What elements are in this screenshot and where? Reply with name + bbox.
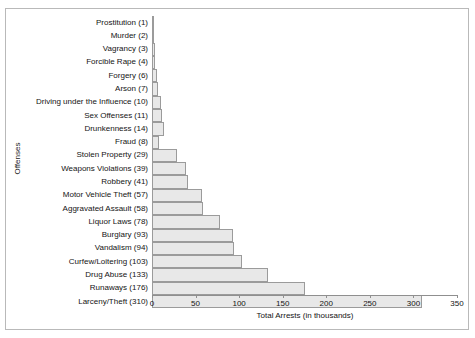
bar-category-label: Burglary (93) [102, 231, 148, 239]
bar [152, 215, 220, 228]
bar [152, 189, 202, 202]
x-axis-tick-label: 200 [320, 299, 333, 308]
bar-category-label: Arson (7) [115, 85, 148, 93]
bar-row: Forgery (6) [152, 69, 457, 82]
bar [152, 229, 233, 242]
bar [152, 202, 203, 215]
x-axis-tick [196, 295, 197, 298]
x-axis-tick-label: 300 [407, 299, 420, 308]
bar-row: Driving under the Influence (10) [152, 96, 457, 109]
bar-category-label: Sex Offenses (11) [84, 112, 148, 120]
plot-area: Prostitution (1)Murder (2)Vagrancy (3)Fo… [152, 16, 457, 295]
bar-category-label: Stolen Property (29) [76, 151, 148, 159]
bar-row: Burglary (93) [152, 229, 457, 242]
bar-category-label: Runaways (176) [90, 284, 148, 292]
x-axis-tick [152, 295, 153, 298]
bar-category-label: Vandalism (94) [95, 244, 148, 252]
x-axis-tick-label: 350 [450, 299, 463, 308]
bar-category-label: Curfew/Loitering (103) [69, 258, 148, 266]
bar-row: Liquor Laws (78) [152, 215, 457, 228]
y-axis-title-text: Offenses [14, 142, 23, 174]
bar [152, 56, 155, 69]
x-axis-title: Total Arrests (in thousands) [152, 311, 458, 320]
x-axis-line [152, 295, 458, 296]
x-axis-tick-label: 250 [363, 299, 376, 308]
x-axis-tick-label: 150 [276, 299, 289, 308]
bar-row: Vagrancy (3) [152, 43, 457, 56]
x-axis-tick-label: 50 [191, 299, 200, 308]
bar-category-label: Robbery (41) [101, 178, 148, 186]
bar [152, 255, 242, 268]
x-axis-tick [239, 295, 240, 298]
bar [152, 43, 155, 56]
bar-row: Forcible Rape (4) [152, 56, 457, 69]
x-axis-tick-label: 100 [232, 299, 245, 308]
bar-row: Robbery (41) [152, 175, 457, 188]
bar-row: Drug Abuse (133) [152, 268, 457, 281]
bar-row: Drunkenness (14) [152, 122, 457, 135]
bar [152, 162, 186, 175]
bar-category-label: Drunkenness (14) [84, 125, 148, 133]
bar-category-label: Aggravated Assault (58) [63, 205, 148, 213]
bar [152, 175, 188, 188]
x-axis-tick [457, 295, 458, 298]
bar [152, 16, 154, 29]
bar [152, 149, 177, 162]
bar-row: Runaways (176) [152, 282, 457, 295]
bar-row: Stolen Property (29) [152, 149, 457, 162]
bar-row: Weapons Violations (39) [152, 162, 457, 175]
bar [152, 69, 157, 82]
bar-row: Murder (2) [152, 29, 457, 42]
bar [152, 242, 234, 255]
bar-row: Arson (7) [152, 82, 457, 95]
bar-row: Vandalism (94) [152, 242, 457, 255]
bar-category-label: Vagrancy (3) [103, 45, 148, 53]
x-axis-tick [413, 295, 414, 298]
bar-category-label: Liquor Laws (78) [88, 218, 148, 226]
bar-category-label: Drug Abuse (133) [85, 271, 148, 279]
bar-category-label: Fraud (8) [115, 138, 148, 146]
x-axis-tick [326, 295, 327, 298]
bar [152, 82, 158, 95]
bar-category-label: Murder (2) [111, 32, 148, 40]
bar-row: Curfew/Loitering (103) [152, 255, 457, 268]
bar [152, 29, 154, 42]
bar [152, 136, 159, 149]
bar-row: Aggravated Assault (58) [152, 202, 457, 215]
bar [152, 282, 305, 295]
bar-category-label: Larceny/Theft (310) [78, 298, 148, 306]
bar-category-label: Forgery (6) [108, 72, 148, 80]
bar-category-label: Driving under the Influence (10) [36, 98, 148, 106]
bar [152, 109, 162, 122]
bar [152, 122, 164, 135]
bar-row: Sex Offenses (11) [152, 109, 457, 122]
bar-category-label: Prostitution (1) [96, 19, 148, 27]
y-axis-title: Offenses [11, 118, 25, 198]
x-axis-tick [283, 295, 284, 298]
bar-row: Fraud (8) [152, 136, 457, 149]
chart-title-clipped [0, 0, 475, 7]
bar-category-label: Motor Vehicle Theft (57) [63, 191, 148, 199]
bar-category-label: Forcible Rape (4) [86, 58, 148, 66]
x-axis-tick [370, 295, 371, 298]
bar-row: Prostitution (1) [152, 16, 457, 29]
bar-row: Motor Vehicle Theft (57) [152, 189, 457, 202]
bar-category-label: Weapons Violations (39) [61, 165, 148, 173]
bar [152, 268, 268, 281]
bar [152, 96, 161, 109]
x-axis-tick-label: 0 [150, 299, 154, 308]
